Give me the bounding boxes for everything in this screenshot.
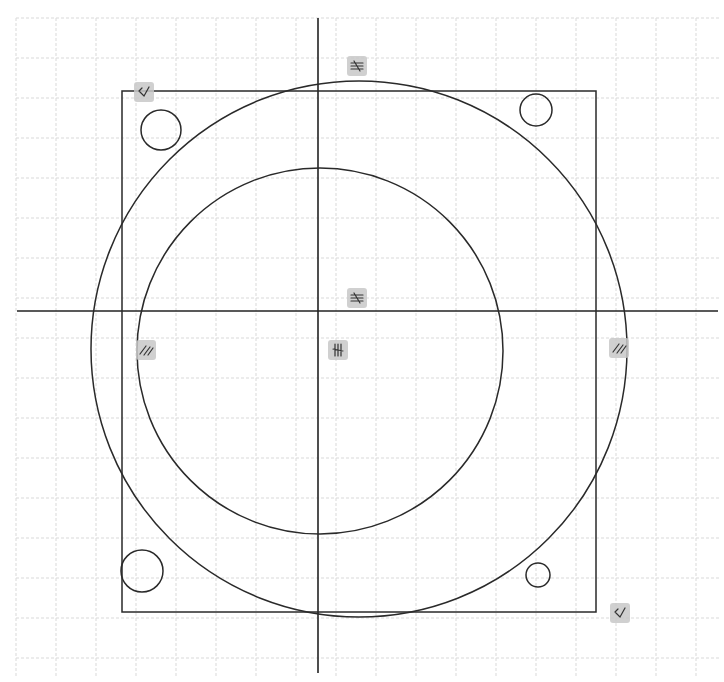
equal-icon — [351, 293, 363, 303]
equal-constraint-center[interactable] — [347, 288, 367, 308]
sketch-geometry[interactable] — [91, 81, 627, 617]
hole-bottom-left[interactable] — [121, 550, 163, 592]
equal-constraint-vertical[interactable] — [328, 340, 348, 360]
sketch-canvas[interactable] — [0, 0, 724, 682]
constraint-badge — [610, 603, 630, 623]
perpendicular-constraint-bottom-right[interactable] — [610, 603, 630, 623]
parallel-constraint-left[interactable] — [136, 340, 156, 360]
perpendicular-constraint-top-left[interactable] — [134, 82, 154, 102]
inner-circle[interactable] — [137, 168, 503, 534]
constraint-badge — [134, 82, 154, 102]
hole-bottom-right[interactable] — [526, 563, 550, 587]
constraint-badge — [609, 338, 629, 358]
equal-constraint-top[interactable] — [347, 56, 367, 76]
constraint-badge — [136, 340, 156, 360]
equal-vertical-icon — [333, 344, 343, 356]
parallel-constraint-right[interactable] — [609, 338, 629, 358]
outer-circle[interactable] — [91, 81, 627, 617]
equal-icon — [351, 61, 363, 71]
hole-top-left[interactable] — [141, 110, 181, 150]
rectangle-plate[interactable] — [122, 91, 596, 612]
